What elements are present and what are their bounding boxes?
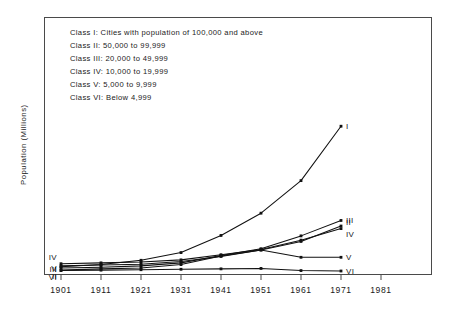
x-axis-tick-label: 1971 (330, 285, 352, 295)
legend-item-class-v: Class V: 5,000 to 9,999 (70, 80, 157, 89)
y-axis-title: Population (Millions) (19, 104, 28, 185)
series-start-label-vi: VI (49, 273, 57, 282)
data-point-marker (340, 227, 343, 230)
data-point-marker (300, 239, 303, 242)
legend-item-class-iv: Class IV: 10,000 to 19,999 (70, 67, 168, 76)
series-end-label-i: I (346, 122, 349, 131)
series-end-label-iv: IV (346, 230, 355, 239)
data-point-marker (220, 255, 223, 258)
x-axis-tick-label: 1931 (170, 285, 192, 295)
data-point-marker (60, 264, 63, 267)
x-axis: 190119111921193119411951196119711981 (50, 274, 392, 295)
legend-item-class-ii: Class II: 50,000 to 99,999 (70, 41, 166, 50)
data-point-marker (180, 268, 183, 271)
data-point-marker (60, 269, 63, 272)
data-point-marker (100, 269, 103, 272)
x-axis-tick-label: 1951 (250, 285, 272, 295)
data-point-marker (260, 249, 263, 252)
x-axis-tick-label: 1941 (210, 285, 232, 295)
data-point-marker (340, 125, 343, 128)
series-end-label-v: V (346, 253, 352, 262)
data-point-marker (260, 212, 263, 215)
series-end-label-iii: III (346, 216, 354, 225)
data-point-marker (340, 219, 343, 222)
legend-item-class-iii: Class III: 20,000 to 49,999 (70, 54, 168, 63)
x-axis-tick-label: 1901 (50, 285, 72, 295)
data-point-marker (220, 267, 223, 270)
legend-item-class-i: Class I: Cities with population of 100,0… (70, 28, 263, 37)
legend-item-class-vi: Class VI: Below 4,999 (70, 93, 152, 102)
chart-figure: Population (Millions) Class I: Cities wi… (0, 0, 456, 309)
x-axis-tick-label: 1981 (370, 285, 392, 295)
data-point-marker (180, 251, 183, 254)
data-point-marker (300, 256, 303, 259)
data-point-marker (300, 234, 303, 237)
data-point-marker (300, 269, 303, 272)
figure-background (0, 0, 456, 309)
data-point-marker (100, 264, 103, 267)
data-point-marker (340, 225, 343, 228)
data-point-marker (300, 179, 303, 182)
line-chart-canvas: Population (Millions) Class I: Cities wi… (0, 0, 456, 309)
data-point-marker (340, 270, 343, 273)
series-start-label-v: V (51, 264, 57, 273)
data-point-marker (180, 260, 183, 263)
x-axis-tick-label: 1961 (290, 285, 312, 295)
data-point-marker (140, 263, 143, 266)
data-point-marker (260, 267, 263, 270)
x-axis-tick-label: 1911 (91, 285, 112, 295)
series-end-label-vi: VI (346, 267, 354, 276)
series-start-label-iv: IV (49, 253, 58, 262)
x-axis-tick-label: 1921 (130, 285, 152, 295)
data-point-marker (220, 234, 223, 237)
data-point-marker (140, 268, 143, 271)
data-point-marker (340, 256, 343, 259)
